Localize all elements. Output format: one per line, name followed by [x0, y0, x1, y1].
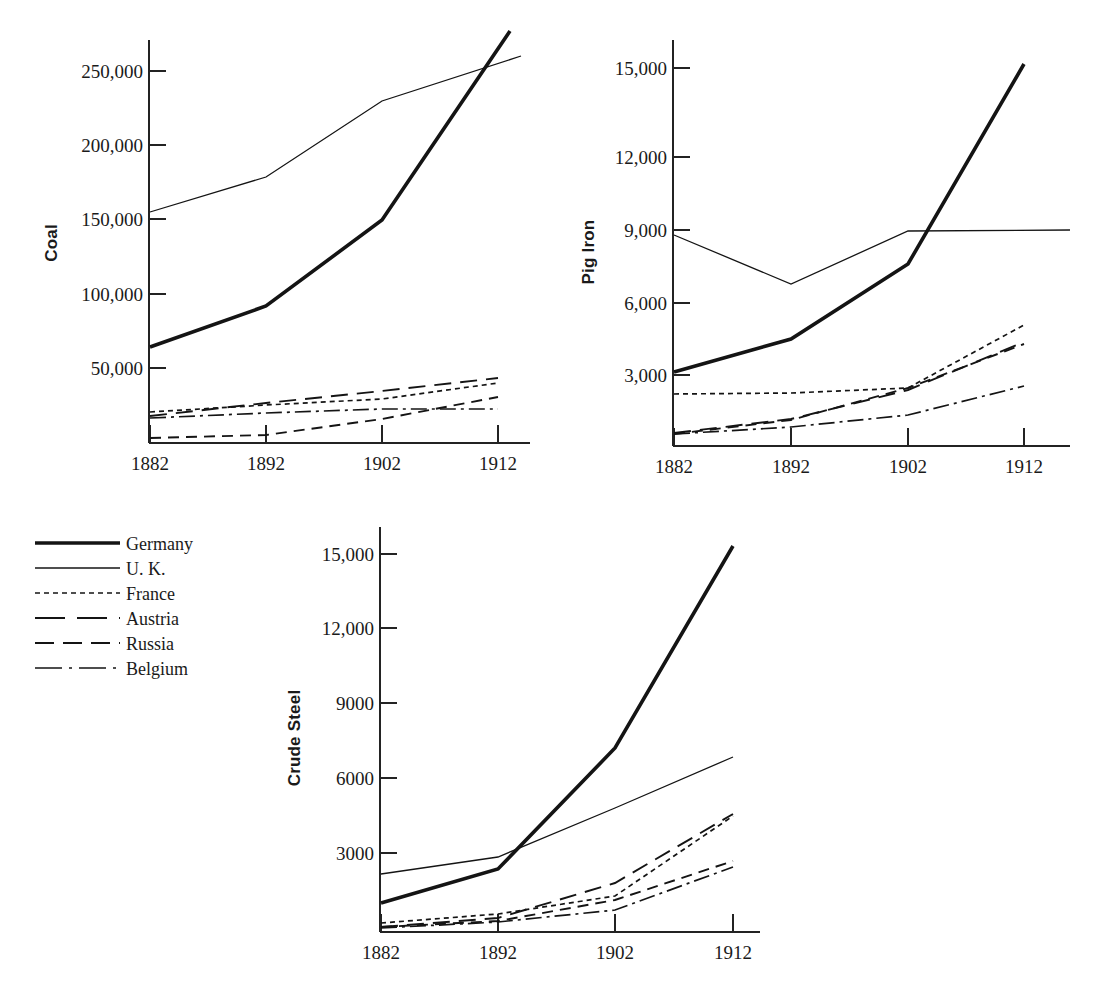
- chart-crude-steel: 15,000 12,000 9000 6000 3000 1882 1892 1…: [285, 527, 760, 963]
- coal-line-russia: [150, 397, 498, 438]
- legend-item-belgium[interactable]: Belgium: [35, 659, 188, 679]
- crude-steel-ytick-15000: 15,000: [322, 544, 374, 565]
- pig-iron-y-ticks: [673, 68, 690, 375]
- crude-steel-ytick-9000: 9000: [336, 693, 374, 714]
- crude-steel-line-austria: [381, 814, 733, 927]
- coal-xtick-1902: 1902: [363, 453, 401, 474]
- crude-steel-ytick-6000: 6000: [336, 768, 374, 789]
- legend-item-uk[interactable]: U. K.: [35, 559, 166, 579]
- figure-industrial-production: 250,000 200,000 150,000 100,000 50,000 1…: [0, 0, 1094, 992]
- coal-xtick-1892: 1892: [247, 453, 285, 474]
- crude-steel-xtick-1882: 1882: [362, 942, 400, 963]
- pig-iron-xtick-1902: 1902: [889, 456, 927, 477]
- pig-iron-ytick-15000: 15,000: [615, 58, 667, 79]
- charts-svg-surface: 250,000 200,000 150,000 100,000 50,000 1…: [0, 0, 1094, 992]
- coal-ytick-200000: 200,000: [81, 135, 143, 156]
- coal-xtick-1912: 1912: [479, 453, 517, 474]
- pig-iron-ytick-12000: 12,000: [615, 147, 667, 168]
- crude-steel-line-russia: [381, 861, 733, 927]
- legend-label-uk: U. K.: [126, 559, 166, 579]
- pig-iron-ytick-3000: 3,000: [624, 365, 667, 386]
- coal-xtick-1882: 1882: [131, 453, 169, 474]
- crude-steel-xtick-1912: 1912: [714, 942, 752, 963]
- pig-iron-line-france: [674, 325, 1024, 394]
- coal-series-group: [150, 31, 521, 438]
- pig-iron-ytick-9000: 9,000: [624, 220, 667, 241]
- coal-x-ticks: [150, 425, 498, 443]
- legend-label-austria: Austria: [126, 609, 179, 629]
- pig-iron-xtick-1912: 1912: [1005, 456, 1043, 477]
- crude-steel-y-ticks: [380, 554, 397, 853]
- pig-iron-line-uk: [674, 230, 1070, 284]
- crude-steel-y-axis-title: Crude Steel: [285, 690, 304, 787]
- pig-iron-xtick-1892: 1892: [772, 456, 810, 477]
- legend-label-germany: Germany: [126, 534, 193, 554]
- coal-ytick-50000: 50,000: [91, 358, 143, 379]
- crude-steel-ytick-12000: 12,000: [322, 618, 374, 639]
- coal-ytick-150000: 150,000: [81, 209, 143, 230]
- legend-label-belgium: Belgium: [126, 659, 188, 679]
- legend: Germany U. K. France Austria Russia Belg…: [35, 534, 193, 679]
- coal-y-axis-title: Coal: [42, 224, 61, 262]
- crude-steel-ytick-3000: 3000: [336, 843, 374, 864]
- crude-steel-xtick-1892: 1892: [479, 942, 517, 963]
- pig-iron-ytick-6000: 6,000: [624, 293, 667, 314]
- crude-steel-xtick-1902: 1902: [596, 942, 634, 963]
- coal-line-germany: [150, 31, 510, 347]
- legend-item-russia[interactable]: Russia: [35, 634, 174, 654]
- pig-iron-xtick-1882: 1882: [655, 456, 693, 477]
- coal-axes: [149, 40, 530, 443]
- legend-item-austria[interactable]: Austria: [35, 609, 179, 629]
- coal-ytick-250000: 250,000: [81, 61, 143, 82]
- legend-item-germany[interactable]: Germany: [35, 534, 193, 554]
- crude-steel-series-group: [381, 546, 733, 928]
- crude-steel-line-uk: [381, 757, 733, 874]
- chart-coal: 250,000 200,000 150,000 100,000 50,000 1…: [42, 31, 530, 474]
- coal-y-ticks: [149, 71, 166, 368]
- pig-iron-series-group: [674, 64, 1070, 434]
- legend-label-russia: Russia: [126, 634, 174, 654]
- legend-label-france: France: [126, 584, 175, 604]
- pig-iron-y-axis-title: Pig Iron: [579, 220, 598, 285]
- legend-item-france[interactable]: France: [35, 584, 175, 604]
- pig-iron-axes: [673, 40, 1070, 446]
- pig-iron-line-germany: [674, 64, 1024, 372]
- crude-steel-line-germany: [381, 546, 733, 903]
- crude-steel-line-belgium: [381, 867, 733, 928]
- coal-line-uk: [150, 56, 521, 212]
- chart-pig-iron: 15,000 12,000 9,000 6,000 3,000 1882 189…: [579, 40, 1070, 477]
- coal-ytick-100000: 100,000: [81, 284, 143, 305]
